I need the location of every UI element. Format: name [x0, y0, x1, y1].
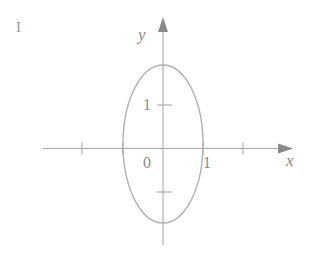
coordinate-plot [0, 0, 319, 255]
y-axis-arrowhead [158, 17, 168, 32]
figure-panel: I y x 1 0 1 [0, 0, 319, 255]
x-tick-label-one: 1 [203, 155, 211, 171]
y-tick-label-one: 1 [143, 97, 151, 113]
origin-label: 0 [143, 155, 151, 171]
panel-label: I [16, 20, 21, 35]
y-axis-label: y [138, 26, 146, 43]
x-axis-label: x [286, 152, 294, 169]
